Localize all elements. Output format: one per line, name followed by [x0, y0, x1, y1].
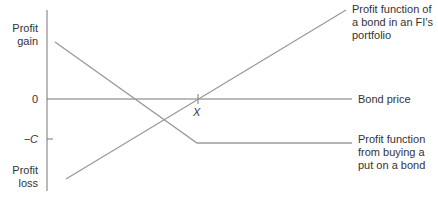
label-line: a bond in an FI's	[352, 16, 433, 29]
label-line: gain	[0, 35, 38, 48]
put-profit-label: Profit function from buying a put on a b…	[358, 133, 425, 172]
label-line: Profit function	[358, 133, 425, 146]
label-line: portfolio	[352, 29, 433, 42]
label-line: Profit	[0, 22, 38, 35]
bond-profit-line	[66, 10, 346, 179]
x-axis-label: Bond price	[358, 93, 411, 106]
minus-c-label: −C	[0, 133, 38, 146]
label-line: Profit	[0, 164, 38, 177]
y-axis-top-label: Profit gain	[0, 22, 38, 48]
label-line: from buying a	[358, 146, 425, 159]
y-axis-bottom-label: Profit loss	[0, 164, 38, 190]
label-line: loss	[0, 177, 38, 190]
label-line: put on a bond	[358, 159, 425, 172]
put-profit-line	[55, 42, 352, 143]
strike-label: X	[193, 106, 200, 119]
label-line: Profit function of	[352, 3, 433, 16]
zero-label: 0	[0, 93, 38, 106]
bond-profit-label: Profit function of a bond in an FI's por…	[352, 3, 433, 42]
